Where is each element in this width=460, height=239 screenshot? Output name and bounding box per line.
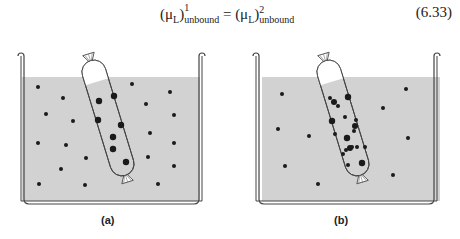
- dialysis-figure: [0, 0, 460, 239]
- figure-label-a: (a): [101, 214, 114, 226]
- figure-label-b: (b): [334, 214, 348, 226]
